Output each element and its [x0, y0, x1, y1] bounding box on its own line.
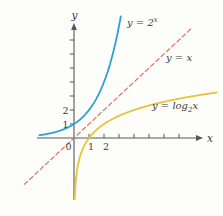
x-axis-tick-label: 2	[103, 141, 109, 152]
curve-label-log2-argument: x	[192, 100, 198, 111]
curve-label-log2: y = log2x	[151, 100, 198, 114]
figure: 1212 0 x y y = 2x y = x y = log2x	[0, 0, 223, 216]
y-axis-arrowhead	[71, 23, 77, 30]
y-axis-label: y	[71, 9, 79, 21]
x-axis-arrowhead	[196, 135, 203, 141]
y-axis-tick-label: 2	[62, 105, 68, 116]
curve-exp2	[40, 16, 121, 135]
y-axis-tick-label: 1	[62, 119, 68, 130]
origin-label: 0	[65, 141, 71, 152]
x-axis-label: x	[207, 132, 213, 144]
curve-label-identity: y = x	[165, 52, 192, 63]
curve-label-exp2: y = 2x	[126, 16, 158, 28]
curve-label-log2-base: y = log	[151, 100, 188, 111]
curve-label-exp2-superscript: x	[154, 16, 158, 24]
function-graph-canvas: 1212 0 x y y = 2x y = x y = log2x	[0, 0, 223, 216]
curve-label-exp2-base: y = 2	[126, 17, 154, 28]
x-axis-tick-label: 1	[88, 141, 94, 152]
